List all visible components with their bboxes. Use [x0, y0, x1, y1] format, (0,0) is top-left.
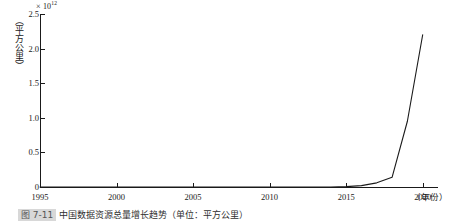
y-tick-label: 2.5	[28, 9, 39, 19]
figure-number: 图 7-11	[18, 209, 56, 221]
y-tick-label: 0	[35, 182, 39, 192]
x-tick-label: 2010	[261, 192, 278, 202]
x-axis-title: （年份）	[412, 190, 448, 202]
x-tick-label: 2000	[108, 192, 125, 202]
y-tick-label: 1.5	[28, 78, 39, 88]
plot-area: 2.52.01.51.00.50 19952000200520102015202…	[40, 14, 438, 188]
y-axis-title: （平方公里）	[10, 16, 24, 70]
x-tick-label: 2005	[185, 192, 202, 202]
y-tick-label: 0.5	[28, 147, 39, 157]
x-tick-label: 1995	[32, 192, 49, 202]
y-axis-multiplier: × 1012	[36, 2, 57, 11]
y-axis-multiplier-exponent: 12	[51, 0, 57, 6]
x-tick-label: 2015	[338, 192, 355, 202]
data-series-line	[40, 14, 438, 188]
y-tick-label: 1.0	[28, 113, 39, 123]
chart-figure: × 1012 （平方公里） 2.52.01.51.00.50 199520002…	[0, 0, 453, 221]
figure-caption-text: 中国数据资源总量增长趋势（单位：平方公里）	[59, 210, 248, 220]
y-tick-label: 2.0	[28, 44, 39, 54]
figure-caption: 图 7-11中国数据资源总量增长趋势（单位：平方公里）	[18, 209, 438, 221]
